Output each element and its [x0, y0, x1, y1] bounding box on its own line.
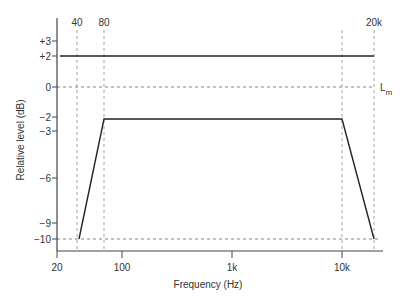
x-axis-title: Frequency (Hz)	[174, 279, 243, 290]
y-tick-label: −2	[40, 112, 52, 123]
x-tick-label: 100	[114, 262, 131, 273]
frequency-response-chart: +3 +2 0 −2 −3 −6 −9 −10 20 100 1k 10k 40…	[0, 0, 411, 300]
y-ticks	[52, 41, 57, 239]
y-tick-label: +3	[40, 36, 52, 47]
top-label-20k: 20k	[366, 17, 383, 28]
top-label-80: 80	[98, 17, 110, 28]
lower-limit-curve	[79, 119, 374, 239]
y-tick-label: +2	[40, 51, 52, 62]
horizontal-reference-lines	[57, 87, 381, 239]
y-tick-label: −3	[40, 126, 52, 137]
x-tick-labels: 20 100 1k 10k	[51, 262, 351, 273]
y-axis-title: Relative level (dB)	[15, 99, 26, 180]
y-tick-labels: +3 +2 0 −2 −3 −6 −9 −10	[34, 36, 51, 245]
vertical-reference-lines	[77, 30, 374, 251]
y-tick-label: −6	[40, 173, 52, 184]
y-tick-label: 0	[45, 82, 51, 93]
y-tick-label: −10	[34, 234, 51, 245]
x-tick-label: 10k	[334, 262, 351, 273]
x-tick-label: 20	[51, 262, 63, 273]
axes	[57, 18, 383, 251]
lm-annotation: Lm	[380, 82, 393, 97]
series	[60, 56, 374, 239]
lm-subscript: m	[386, 88, 393, 97]
x-ticks	[57, 251, 342, 258]
x-tick-label: 1k	[227, 262, 239, 273]
svg-text:Lm: Lm	[380, 82, 393, 97]
y-tick-label: −9	[40, 218, 52, 229]
top-label-40: 40	[71, 17, 83, 28]
top-frequency-labels: 40 80 20k	[71, 17, 383, 28]
